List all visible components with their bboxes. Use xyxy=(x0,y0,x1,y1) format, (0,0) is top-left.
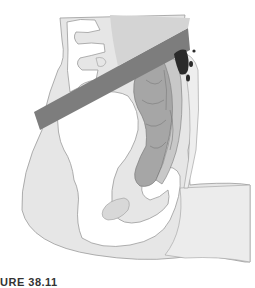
fluid-drop-1 xyxy=(189,61,193,67)
fluid-drop-2 xyxy=(186,75,190,82)
fluid-drop-3 xyxy=(192,49,195,52)
figure-caption: URE 38.11 xyxy=(0,276,58,288)
